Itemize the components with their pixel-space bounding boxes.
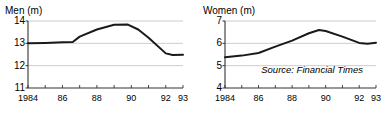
x-tick-label: 93 <box>371 93 381 103</box>
y-tick-label: 5 <box>216 61 222 71</box>
chart-title-women: Women (m) <box>203 5 255 17</box>
y-tick-label: 6 <box>216 38 222 48</box>
x-tick-label: 93 <box>178 93 188 103</box>
data-series-line <box>28 25 183 55</box>
x-tick-label: 90 <box>321 93 331 103</box>
y-tick-label: 4 <box>216 83 222 93</box>
figure-container: Men (m) 1413121119848688909293 Women (m)… <box>0 0 386 116</box>
chart-panel-women: Women (m) Source: Financial Times 765419… <box>193 0 386 116</box>
plot-area-men: 1413121119848688909293 <box>28 21 183 88</box>
x-tick-label: 1984 <box>215 93 235 103</box>
x-tick-label: 90 <box>126 93 136 103</box>
x-tick-label: 88 <box>287 93 297 103</box>
x-tick-label: 86 <box>254 93 264 103</box>
line-chart-men <box>28 21 183 88</box>
y-tick-label: 14 <box>14 16 25 26</box>
line-chart-women <box>225 21 376 88</box>
source-annotation: Source: Financial Times <box>261 64 363 75</box>
x-tick-label: 88 <box>92 93 102 103</box>
plot-area-women: Source: Financial Times 7654198486889092… <box>225 21 376 88</box>
y-tick-label: 12 <box>14 61 25 71</box>
chart-panel-men: Men (m) 1413121119848688909293 <box>0 0 193 116</box>
x-tick-label: 92 <box>354 93 364 103</box>
y-tick-label: 11 <box>15 83 25 93</box>
y-tick-label: 7 <box>216 16 222 26</box>
x-tick-label: 86 <box>57 93 67 103</box>
x-tick-label: 92 <box>161 93 171 103</box>
y-tick-label: 13 <box>14 38 25 48</box>
x-tick-label: 1984 <box>18 93 38 103</box>
